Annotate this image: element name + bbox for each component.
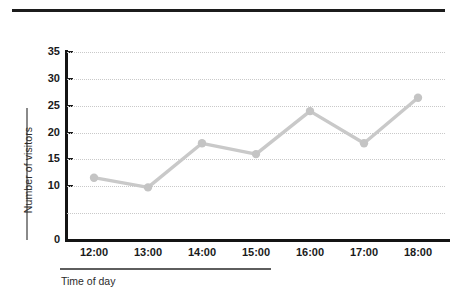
data-point-marker	[360, 139, 368, 147]
data-point-marker	[144, 183, 152, 191]
plot-area	[67, 52, 445, 240]
data-point-marker	[306, 107, 314, 115]
y-tick-label: 0	[20, 234, 60, 245]
y-tick-label: 10	[20, 180, 60, 191]
data-point-marker	[252, 150, 260, 158]
x-tick-label: 12:00	[64, 247, 124, 258]
data-point-marker	[198, 139, 206, 147]
y-tick-label: 35	[20, 46, 60, 57]
data-point-marker	[414, 94, 422, 102]
x-tick-label: 13:00	[118, 247, 178, 258]
x-tick-label: 15:00	[226, 247, 286, 258]
y-tick-label: 30	[20, 73, 60, 84]
y-tick-label: 15	[20, 153, 60, 164]
top-divider-rule	[12, 9, 445, 12]
x-tick-label: 17:00	[334, 247, 394, 258]
y-tick-label: 25	[20, 100, 60, 111]
chart-figure: Number of visitors 3530252015100 12:0013…	[0, 0, 468, 300]
x-axis-tick-labels: 12:0013:0014:0015:0016:0017:0018:00	[67, 247, 445, 263]
line-series	[67, 52, 445, 240]
x-tick-label: 18:00	[388, 247, 448, 258]
x-tick-label: 14:00	[172, 247, 232, 258]
x-axis-title-rule	[60, 268, 271, 270]
series-line	[94, 98, 418, 188]
x-tick-label: 16:00	[280, 247, 340, 258]
y-tick-label: 20	[20, 127, 60, 138]
y-axis-tick-labels: 3530252015100	[20, 52, 60, 240]
data-point-marker	[90, 174, 98, 182]
x-axis-title: Time of day	[61, 275, 115, 287]
